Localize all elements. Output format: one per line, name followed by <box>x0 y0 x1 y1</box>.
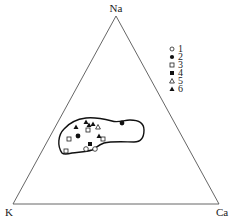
point-square-open <box>86 128 90 132</box>
point-circle-filled <box>120 121 125 126</box>
legend: 1 2 3 4 5 6 <box>170 43 184 94</box>
point-square-open <box>101 137 105 141</box>
legend-circle-filled-icon <box>170 55 174 59</box>
point-triangle-open <box>96 125 101 130</box>
legend-square-filled-icon <box>170 71 174 75</box>
vertex-label-na: Na <box>110 2 123 14</box>
vertex-label-ca: Ca <box>216 206 228 218</box>
point-square-open <box>64 149 68 153</box>
point-triangle-filled <box>84 120 89 125</box>
point-square-open <box>67 137 71 141</box>
data-points <box>64 120 124 154</box>
point-circle-open <box>84 147 89 152</box>
point-circle-open <box>93 147 98 152</box>
ternary-triangle <box>13 16 219 204</box>
field-outline <box>59 118 144 154</box>
point-circle-filled <box>76 134 81 139</box>
legend-label-6: 6 <box>178 83 183 94</box>
legend-triangle-open-icon <box>170 79 175 84</box>
point-triangle-filled <box>74 125 79 130</box>
legend-item-6: 6 <box>170 83 184 94</box>
ternary-diagram: Na K Ca 1 2 <box>0 0 234 223</box>
point-triangle-filled <box>97 134 102 139</box>
legend-triangle-filled-icon <box>170 87 175 92</box>
legend-circle-open-icon <box>170 47 174 51</box>
vertex-label-k: K <box>5 206 13 218</box>
point-triangle-filled <box>91 122 96 127</box>
legend-square-open-icon <box>170 63 174 67</box>
point-square-filled <box>88 142 92 146</box>
